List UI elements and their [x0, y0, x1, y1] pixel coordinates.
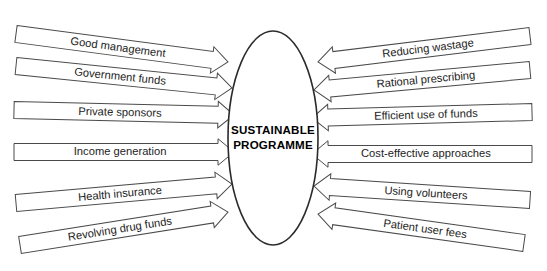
right-arrow: Efficient use of funds: [312, 99, 533, 132]
arrow-label: Income generation: [74, 145, 167, 157]
diagram-canvas: Good managementGovernment fundsPrivate s…: [0, 0, 547, 271]
right-arrow: Cost-effective approaches: [312, 141, 532, 168]
right-arrow-group: Reducing wastageRational prescribingEffi…: [312, 23, 533, 256]
center-label-line1: SUSTAINABLE: [231, 123, 315, 136]
arrow-label: Private sponsors: [78, 105, 162, 119]
right-arrow: Using volunteers: [313, 173, 531, 213]
center-label-line2: PROGRAMME: [233, 138, 313, 151]
arrow-label: Revolving drug funds: [67, 214, 173, 242]
left-arrow: Income generation: [14, 139, 234, 166]
arrow-label: Cost-effective approaches: [361, 147, 491, 159]
left-arrow-group: Good managementGovernment fundsPrivate s…: [14, 21, 235, 258]
right-arrow: Patient user fees: [316, 201, 526, 256]
sustainable-programme-diagram: Good managementGovernment fundsPrivate s…: [0, 0, 547, 271]
left-arrow: Private sponsors: [14, 97, 235, 129]
